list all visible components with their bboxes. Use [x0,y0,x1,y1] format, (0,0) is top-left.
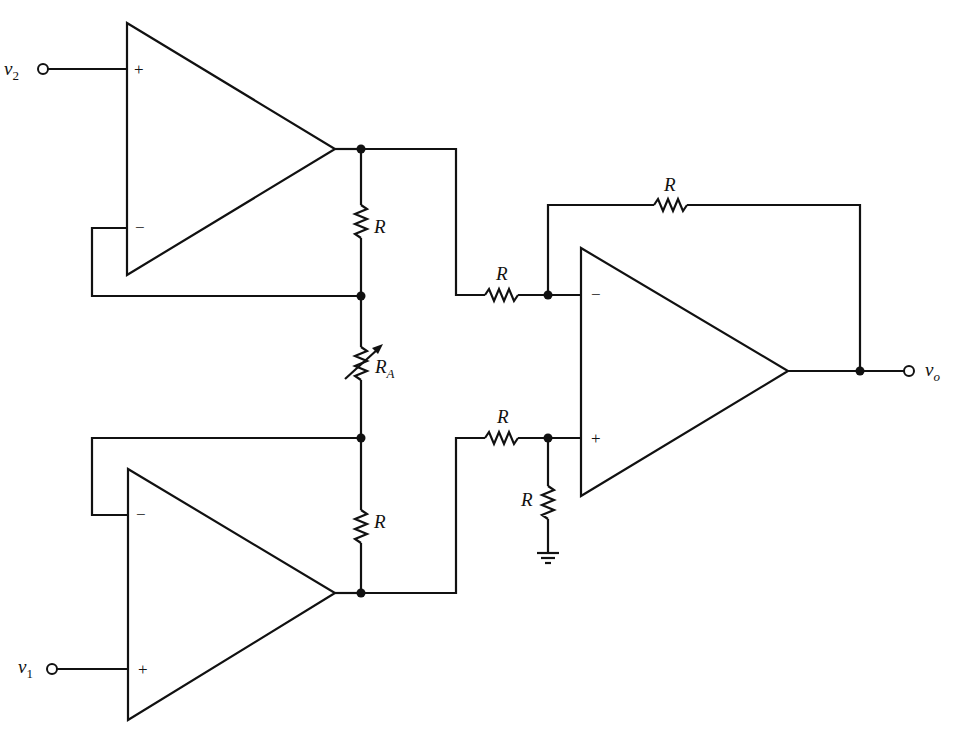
op-amp-bottom-minus-sign: − [136,505,146,524]
input-v1: v1 [18,656,128,681]
terminal-v1[interactable] [47,664,57,674]
op-amp-top-minus-sign: − [135,218,145,237]
junction-a3-minus [544,291,553,300]
ground-leg: R [520,438,559,563]
label-ra: RA [374,356,395,381]
label-r-ground: R [520,489,533,510]
junction-output [856,367,865,376]
junction-a1-output [357,145,366,154]
resistor-input-minus [485,289,518,301]
junction-a2-output [357,589,366,598]
op-amp-top-plus-sign: + [134,60,144,79]
junction-a3-plus [544,434,553,443]
op-amp-bottom-triangle [128,469,335,720]
label-r-output-feedback: R [663,174,676,195]
op-amp-bottom-plus-sign: + [138,660,148,679]
terminal-vo[interactable] [904,366,914,376]
op-amp-output-triangle [581,248,788,496]
op-amp-output: − + [581,248,788,496]
input-v2: v2 [4,58,127,83]
label-vo: vo [925,359,940,384]
label-r-top: R [373,216,386,237]
resistor-ground [542,486,554,519]
resistor-top-feedback [355,205,367,238]
junction-a2-minus [357,434,366,443]
op-amp-top: + − [127,23,335,275]
resistor-chain: R RA R [345,149,395,593]
ground-icon [537,553,559,563]
op-amp-bottom: − + [128,469,335,720]
resistor-input-plus [485,432,518,444]
label-v1: v1 [18,656,33,681]
op-amp-output-plus-sign: + [591,429,601,448]
terminal-v2[interactable] [38,64,48,74]
label-r-input-minus: R [495,263,508,284]
label-v2: v2 [4,58,19,83]
label-r-bottom: R [373,511,386,532]
op-amp-output-minus-sign: − [591,285,601,304]
resistor-output-feedback [654,199,687,211]
op-amp-top-triangle [127,23,335,275]
label-r-input-plus: R [496,406,509,427]
junction-a1-minus [357,292,366,301]
instrumentation-amplifier-schematic: + − v2 R RA R − + [0,0,960,745]
resistor-bottom-feedback [355,510,367,543]
